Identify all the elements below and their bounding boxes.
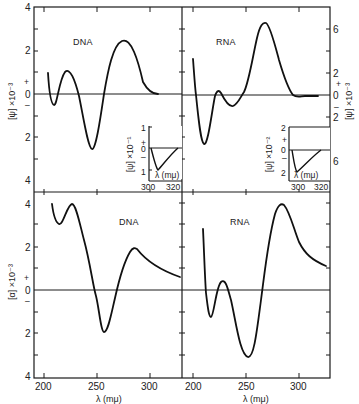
svg-text:2: 2 [333, 68, 339, 79]
svg-text:4: 4 [25, 199, 31, 210]
svg-text:4: 4 [25, 175, 31, 186]
svg-text:0: 0 [333, 90, 339, 101]
svg-text:+: + [282, 135, 287, 145]
svg-text:–: – [25, 296, 30, 306]
svg-text:–: – [25, 100, 30, 110]
svg-text:6: 6 [333, 24, 339, 35]
inset-dna: 1 + 0 – 1 λ (mμ) 300 320 [ψ] ×10⁻¹ [125, 123, 182, 192]
svg-text:2: 2 [281, 123, 286, 133]
ord-cd-figure: 4 2 + 0 – 2 4 [ψ] ×10⁻³ 4 2 + 0 – 2 4 [α… [0, 0, 359, 404]
svg-text:300: 300 [141, 381, 158, 392]
y-labels-top-left: 4 2 + 0 – 2 4 [24, 2, 31, 186]
svg-text:λ (mμ): λ (mμ) [294, 170, 318, 180]
y-axis-title-top-right: [ψ] ×10⁻³ [344, 83, 354, 120]
svg-text:[ψ] ×10⁻¹: [ψ] ×10⁻¹ [125, 136, 135, 172]
svg-text:300: 300 [291, 182, 305, 192]
panel-title-dna-ord: DNA [73, 37, 93, 47]
svg-text:0: 0 [25, 285, 31, 296]
svg-text:2: 2 [25, 328, 31, 339]
svg-text:+: + [336, 79, 341, 89]
svg-text:250: 250 [88, 381, 105, 392]
svg-text:0: 0 [25, 89, 31, 100]
svg-text:[ψ] ×10⁻²: [ψ] ×10⁻² [264, 136, 274, 172]
y-labels-bottom-left: 4 2 + 0 – 2 4 [24, 199, 31, 382]
svg-text:6: 6 [333, 156, 339, 167]
panel-title-rna-ord: RNA [216, 37, 236, 47]
svg-text:λ (mμ): λ (mμ) [155, 170, 179, 180]
svg-text:320: 320 [314, 182, 328, 192]
svg-text:4: 4 [25, 371, 31, 382]
svg-text:–: – [141, 152, 146, 162]
svg-text:200: 200 [185, 381, 202, 392]
svg-text:320: 320 [166, 182, 180, 192]
svg-text:+: + [24, 273, 29, 283]
svg-text:2: 2 [281, 168, 286, 178]
svg-text:2: 2 [333, 112, 339, 123]
svg-text:1: 1 [141, 123, 146, 133]
svg-text:2: 2 [25, 45, 31, 56]
svg-text:300: 300 [141, 182, 155, 192]
curve-rna-cd [203, 204, 326, 357]
x-axis-title-left: λ (mμ) [96, 394, 122, 404]
svg-text:300: 300 [290, 381, 307, 392]
y-labels-top-right: 6 2 + 0 – 2 6 [333, 24, 341, 167]
y-axis-title-top-left: [ψ] ×10⁻³ [7, 83, 17, 120]
svg-text:–: – [334, 102, 339, 112]
svg-text:–: – [282, 153, 287, 163]
svg-text:4: 4 [25, 2, 31, 13]
x-axis-title-right: λ (mμ) [243, 394, 269, 404]
curve-dna-cd [52, 204, 180, 332]
svg-text:+: + [24, 77, 29, 87]
svg-text:200: 200 [35, 381, 52, 392]
svg-text:2: 2 [25, 242, 31, 253]
curve-rna-ord [193, 23, 318, 144]
svg-text:250: 250 [238, 381, 255, 392]
svg-text:2: 2 [25, 132, 31, 143]
y-axis-title-bottom-left: [α] ×10⁻³ [7, 264, 17, 300]
svg-text:1: 1 [141, 167, 146, 177]
panel-title-dna-cd: DNA [119, 217, 139, 227]
panel-title-rna-cd: RNA [230, 217, 250, 227]
x-labels: 200 250 300 200 250 300 [35, 381, 307, 392]
inset-rna: 2 + 0 – 2 λ (mμ) 300 320 [ψ] ×10⁻² [264, 123, 330, 192]
